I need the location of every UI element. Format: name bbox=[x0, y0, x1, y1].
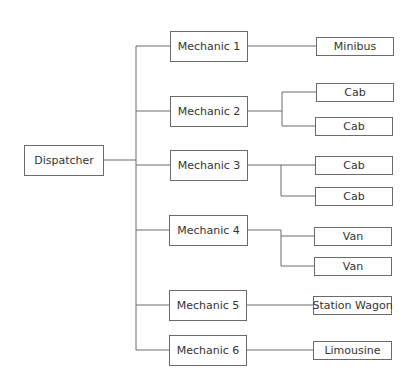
vehicle-cab-node: Cab bbox=[315, 117, 393, 136]
mechanic-5-node: Mechanic 5 bbox=[169, 290, 247, 321]
mechanic-3-node: Mechanic 3 bbox=[170, 150, 248, 181]
mechanic-6-node: Mechanic 6 bbox=[169, 335, 247, 366]
vehicle-van-node: Van bbox=[314, 227, 392, 246]
dispatcher-node: Dispatcher bbox=[24, 145, 104, 176]
vehicle-cab-node: Cab bbox=[315, 156, 393, 175]
vehicle-limousine-node: Limousine bbox=[313, 341, 392, 360]
vehicle-cab-node: Cab bbox=[316, 83, 394, 102]
mechanic-4-node: Mechanic 4 bbox=[169, 215, 248, 246]
vehicle-cab-node: Cab bbox=[315, 187, 393, 206]
vehicle-station-wagon-node: Station Wagon bbox=[313, 296, 392, 315]
mechanic-2-node: Mechanic 2 bbox=[170, 96, 248, 127]
vehicle-minibus-node: Minibus bbox=[316, 37, 394, 56]
mechanic-1-node: Mechanic 1 bbox=[170, 31, 248, 62]
vehicle-van-node: Van bbox=[314, 257, 392, 276]
